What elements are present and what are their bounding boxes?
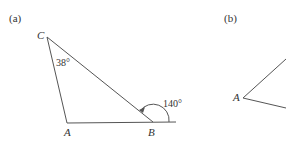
panel-a-label: (a) [9,13,21,24]
angle-c-label: 38° [56,58,70,68]
panel-b-label: (b) [224,13,237,24]
side-ab-extended [67,122,176,123]
geometry-figure [0,0,286,147]
vertex-a-label: A [64,127,71,138]
ray-lower [243,98,286,108]
panel-b-vertex-a-label: A [233,92,240,103]
vertex-b-label: B [148,127,155,138]
vertex-c-label: C [37,30,44,41]
side-ca [47,37,67,123]
exterior-angle-label: 140° [163,99,182,109]
side-cb [47,37,153,122]
ray-upper [243,59,286,98]
